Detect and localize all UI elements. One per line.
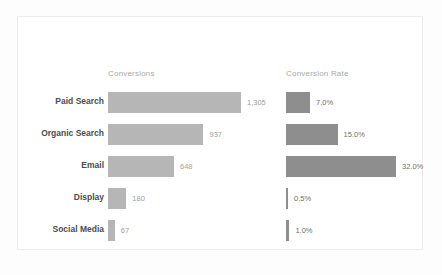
metric-conversion-rate: 15.0% [286, 124, 365, 145]
bar-value-label: 180 [132, 194, 145, 203]
column-header-conversion-rate: Conversion Rate [286, 69, 349, 78]
bar [286, 124, 338, 145]
bar [286, 92, 310, 113]
bar [286, 188, 288, 209]
bar [108, 188, 126, 209]
bar-row: Display1800.5% [18, 185, 422, 213]
metric-conversion-rate: 32.0% [286, 156, 423, 177]
bar [108, 124, 203, 145]
metric-conversion-rate: 1.0% [286, 220, 313, 241]
bar-value-label: 15.0% [344, 130, 365, 139]
bar-value-label: 32.0% [402, 162, 423, 171]
bar-value-label: 7.0% [316, 98, 333, 107]
bar-row: Paid Search1,3057.0% [18, 89, 422, 117]
category-label: Social Media [53, 224, 105, 234]
metric-conversions: 67 [108, 220, 129, 241]
bar-value-label: 937 [209, 130, 222, 139]
bar-value-label: 0.5% [294, 194, 311, 203]
bar [286, 220, 289, 241]
category-label: Paid Search [55, 96, 104, 106]
metric-conversions: 937 [108, 124, 222, 145]
metric-conversion-rate: 7.0% [286, 92, 333, 113]
bar [286, 156, 396, 177]
bar-rows: Paid Search1,3057.0%Organic Search93715.… [18, 89, 422, 249]
metric-conversions: 648 [108, 156, 193, 177]
category-label: Email [81, 160, 104, 170]
bar [108, 92, 241, 113]
bar-value-label: 67 [121, 226, 129, 235]
category-label: Display [74, 192, 104, 202]
chart-card: Conversions Conversion Rate Paid Search1… [17, 16, 423, 250]
category-label: Organic Search [41, 128, 104, 138]
bar-row: Social Media671.0% [18, 217, 422, 245]
metric-conversions: 180 [108, 188, 145, 209]
bar [108, 220, 115, 241]
column-header-conversions: Conversions [108, 69, 155, 78]
bar-row: Organic Search93715.0% [18, 121, 422, 149]
bar-value-label: 648 [180, 162, 193, 171]
bar-value-label: 1,305 [247, 98, 266, 107]
bar [108, 156, 174, 177]
bar-row: Email64832.0% [18, 153, 422, 181]
bar-value-label: 1.0% [295, 226, 312, 235]
metric-conversions: 1,305 [108, 92, 266, 113]
metric-conversion-rate: 0.5% [286, 188, 311, 209]
